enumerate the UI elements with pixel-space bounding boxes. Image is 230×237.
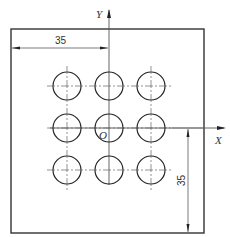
dimension-vertical: 35	[172, 128, 204, 232]
y-axis-arrow-icon	[107, 9, 111, 18]
x-axis-label: X	[214, 134, 223, 146]
dimension-vertical-value: 35	[176, 174, 187, 186]
dimension-horizontal: 35	[12, 35, 108, 50]
y-axis-label: Y	[96, 8, 104, 20]
technical-drawing: Y X O 35 35	[0, 0, 230, 237]
plate-outline	[11, 29, 204, 233]
x-axis-arrow-icon	[217, 126, 226, 130]
dimension-horizontal-value: 35	[55, 35, 67, 46]
